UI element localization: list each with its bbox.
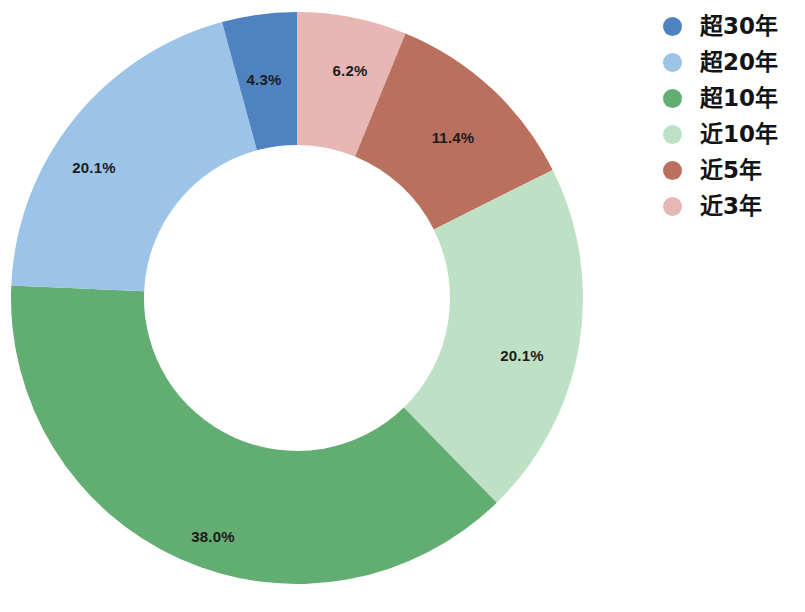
legend-item-label: 超30年 xyxy=(700,15,778,38)
legend-item-label: 超10年 xyxy=(700,87,778,110)
donut-slice-group xyxy=(11,12,583,584)
legend-swatch-icon xyxy=(663,125,682,144)
legend: 超30年超20年超10年近10年近5年近3年 xyxy=(663,8,805,224)
donut-svg xyxy=(0,0,640,612)
legend-swatch-icon xyxy=(663,197,682,216)
donut-plot-area: 6.2%11.4%20.1%38.0%20.1%4.3% xyxy=(0,0,640,612)
legend-item[interactable]: 近10年 xyxy=(663,116,805,152)
legend-swatch-icon xyxy=(663,53,682,72)
legend-swatch-icon xyxy=(663,17,682,36)
legend-swatch-icon xyxy=(663,161,682,180)
legend-item-label: 近10年 xyxy=(700,123,778,146)
legend-item[interactable]: 近3年 xyxy=(663,188,805,224)
legend-swatch-icon xyxy=(663,89,682,108)
donut-slice[interactable] xyxy=(11,22,257,291)
legend-item-label: 超20年 xyxy=(700,51,778,74)
legend-item-label: 近3年 xyxy=(700,195,762,218)
legend-item[interactable]: 超10年 xyxy=(663,80,805,116)
legend-item[interactable]: 超30年 xyxy=(663,8,805,44)
legend-item[interactable]: 近5年 xyxy=(663,152,805,188)
donut-chart: 6.2%11.4%20.1%38.0%20.1%4.3% 超30年超20年超10… xyxy=(0,0,805,612)
donut-slice[interactable] xyxy=(11,286,497,584)
legend-item-label: 近5年 xyxy=(700,159,762,182)
legend-item[interactable]: 超20年 xyxy=(663,44,805,80)
